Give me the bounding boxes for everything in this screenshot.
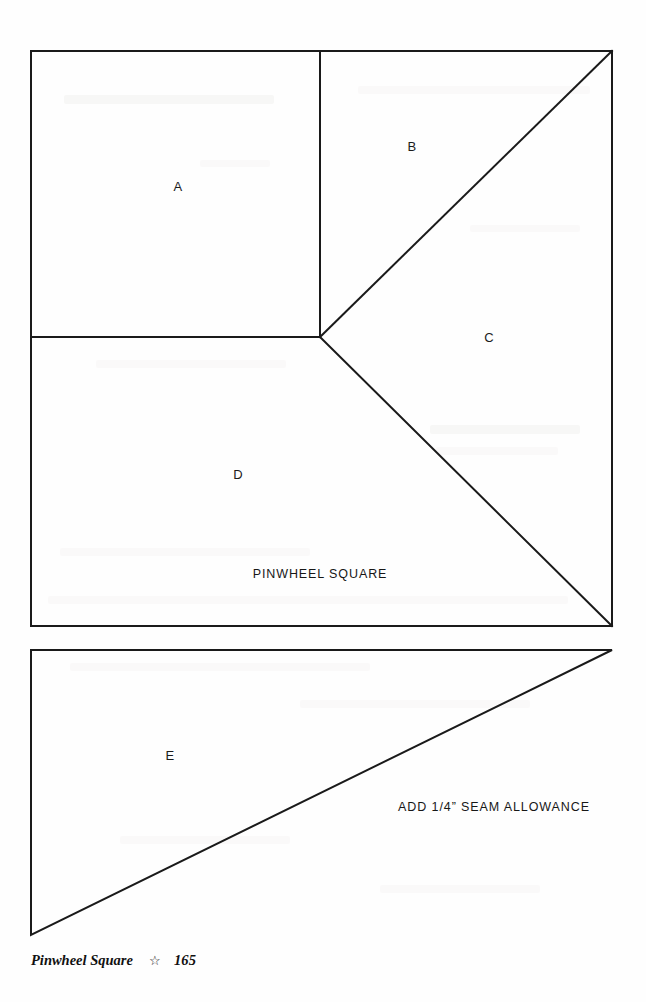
piece-label-c: C	[484, 330, 494, 345]
piece-label-e: E	[166, 748, 175, 763]
piece-label-d: D	[233, 467, 243, 482]
book-page: A B C D E PINWHEEL SQUARE ADD 1/4” SEAM …	[0, 0, 646, 1002]
diagonal-lower	[320, 337, 612, 626]
page-number: 165	[174, 952, 196, 969]
piece-label-b: B	[408, 139, 417, 154]
footer-title: Pinwheel Square	[31, 952, 133, 969]
pattern-linework	[0, 0, 646, 1002]
diagonal-upper	[320, 51, 612, 337]
seam-allowance-note: ADD 1/4” SEAM ALLOWANCE	[398, 800, 590, 814]
lower-triangle-outline	[31, 650, 612, 935]
block-name-caption: PINWHEEL SQUARE	[253, 567, 388, 581]
piece-label-a: A	[174, 179, 183, 194]
star-outline-icon: ☆	[133, 953, 174, 969]
page-footer: Pinwheel Square ☆ 165	[31, 952, 196, 969]
quilt-pattern-diagram	[0, 0, 646, 1002]
